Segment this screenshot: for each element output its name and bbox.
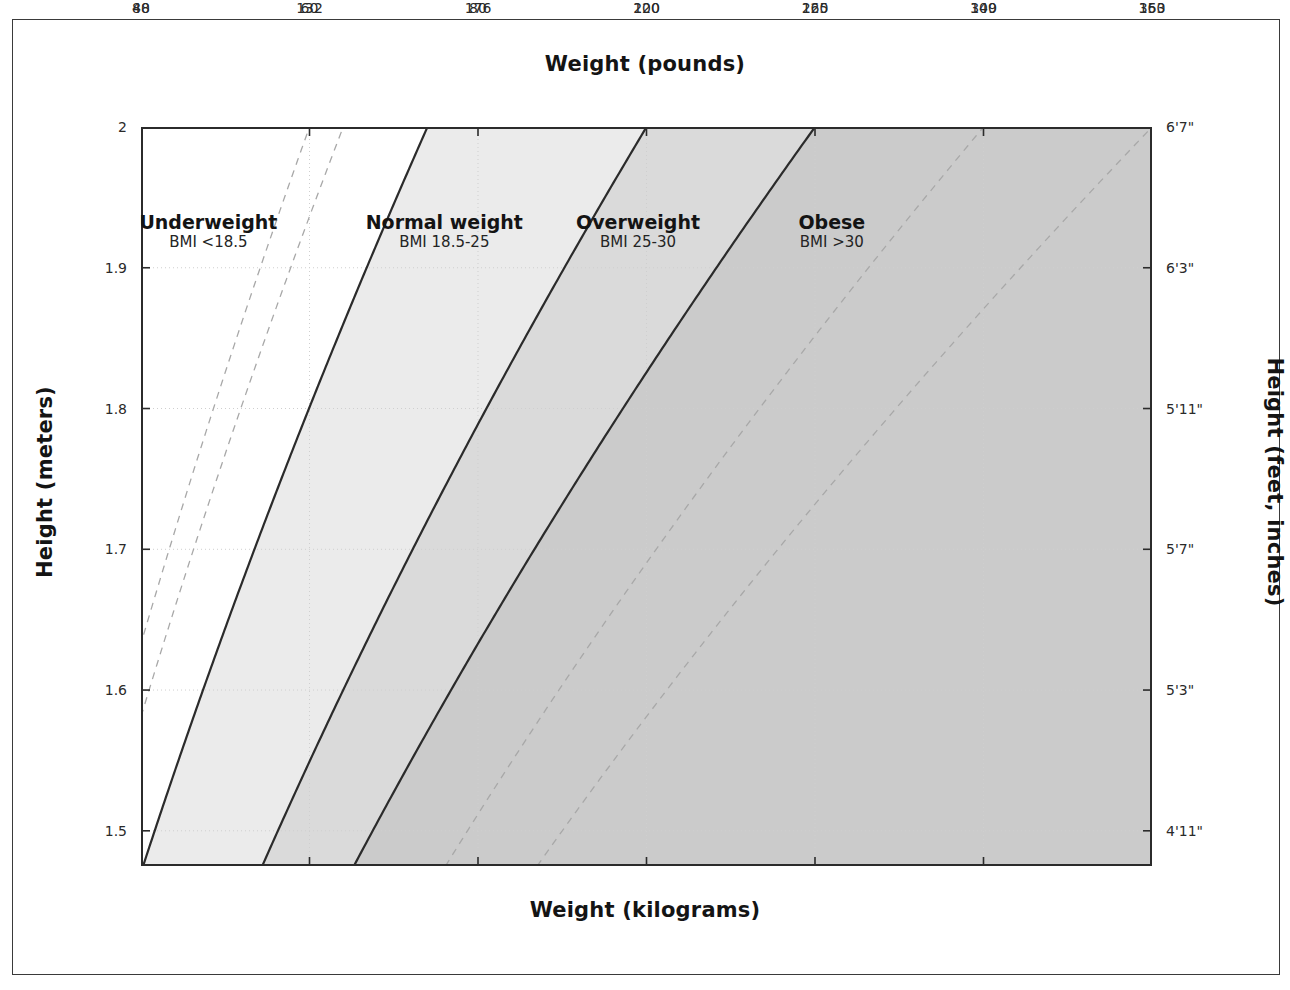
- region-name: Underweight: [139, 212, 277, 234]
- region-annotation: OverweightBMI 25-30: [576, 212, 700, 253]
- figure-page: Weight (pounds) Weight (kilograms) Heigh…: [0, 0, 1290, 990]
- tick-label-top: 88: [132, 0, 150, 16]
- tick-label-right: 6'3": [1166, 260, 1194, 276]
- tick-label-left: 1.5: [105, 823, 127, 839]
- tick-label-right: 4'11": [1166, 823, 1203, 839]
- tick-label-right: 6'7": [1166, 119, 1194, 135]
- tick-label-top: 176: [465, 0, 492, 16]
- tick-label-left: 1.8: [105, 401, 127, 417]
- region-name: Overweight: [576, 212, 700, 234]
- bottom-axis-title: Weight (kilograms): [0, 898, 1290, 922]
- right-axis-title: Height (feet, inches): [1263, 162, 1287, 802]
- tick-label-left: 1.9: [105, 260, 127, 276]
- region-annotation: ObeseBMI >30: [798, 212, 865, 253]
- tick-label-right: 5'11": [1166, 401, 1203, 417]
- tick-label-top: 132: [296, 0, 323, 16]
- tick-label-top: 309: [970, 0, 997, 16]
- region-annotation: UnderweightBMI <18.5: [139, 212, 277, 253]
- tick-label-left: 2: [118, 119, 127, 135]
- top-axis-title: Weight (pounds): [0, 52, 1290, 76]
- region-bmi-range: BMI 18.5-25: [366, 233, 523, 253]
- tick-label-right: 5'7": [1166, 541, 1194, 557]
- tick-label-right: 5'3": [1166, 682, 1194, 698]
- region-bmi-range: BMI >30: [798, 233, 865, 253]
- region-name: Normal weight: [366, 212, 523, 234]
- left-axis-title: Height (meters): [33, 162, 57, 802]
- tick-label-top: 220: [633, 0, 660, 16]
- tick-label-top: 265: [802, 0, 829, 16]
- tick-label-left: 1.7: [105, 541, 127, 557]
- region-name: Obese: [798, 212, 865, 234]
- tick-label-top: 353: [1139, 0, 1166, 16]
- region-bmi-range: BMI <18.5: [139, 233, 277, 253]
- region-annotation: Normal weightBMI 18.5-25: [366, 212, 523, 253]
- region-bmi-range: BMI 25-30: [576, 233, 700, 253]
- tick-label-left: 1.6: [105, 682, 127, 698]
